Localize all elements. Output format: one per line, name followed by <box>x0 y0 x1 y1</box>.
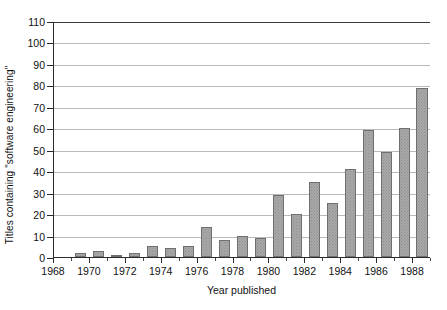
bar-1987 <box>399 128 410 257</box>
bar-1983 <box>327 203 338 257</box>
bar-series <box>54 22 430 257</box>
x-tick-1970 <box>89 258 90 263</box>
y-tick-label-40: 40 <box>33 166 45 178</box>
x-tick-minor-1981 <box>286 258 287 261</box>
plot-area <box>53 22 430 258</box>
y-tick-label-70: 70 <box>33 102 45 114</box>
bar-1972 <box>129 253 140 257</box>
x-tick-label-1986: 1986 <box>364 265 387 277</box>
x-tick-minor-1977 <box>215 258 216 261</box>
x-tick-minor-1969 <box>71 258 72 261</box>
x-tick-label-1988: 1988 <box>400 265 423 277</box>
bar-1969 <box>75 253 86 257</box>
bar-1977 <box>219 240 230 257</box>
y-tick-label-0: 0 <box>39 252 45 264</box>
x-tick-minor-1975 <box>179 258 180 261</box>
x-tick-label-1980: 1980 <box>257 265 280 277</box>
x-tick-1984 <box>340 258 341 263</box>
x-tick-label-1974: 1974 <box>149 265 172 277</box>
bar-1980 <box>273 195 284 257</box>
x-tick-minor-1985 <box>358 258 359 261</box>
x-tick-1980 <box>268 258 269 263</box>
bar-1982 <box>309 182 320 257</box>
bar-1986 <box>381 152 392 257</box>
bar-1979 <box>255 238 266 257</box>
x-tick-minor-1979 <box>250 258 251 261</box>
y-tick-label-50: 50 <box>33 145 45 157</box>
x-tick-label-1968: 1968 <box>41 265 64 277</box>
bar-1975 <box>183 246 194 257</box>
bar-1981 <box>291 214 302 257</box>
x-tick-minor-1971 <box>107 258 108 261</box>
x-tick-minor-1973 <box>143 258 144 261</box>
x-tick-1976 <box>197 258 198 263</box>
x-tick-label-1972: 1972 <box>113 265 136 277</box>
x-tick-label-1978: 1978 <box>221 265 244 277</box>
bar-1970 <box>93 251 104 257</box>
x-tick-minor-1987 <box>394 258 395 261</box>
bar-chart-figure: Titles containing "software engineering"… <box>0 0 447 310</box>
bar-1985 <box>363 130 374 257</box>
bar-1973 <box>147 246 158 257</box>
y-tick-label-90: 90 <box>33 59 45 71</box>
x-tick-label-1982: 1982 <box>293 265 316 277</box>
y-tick-label-100: 100 <box>27 37 45 49</box>
x-tick-label-1984: 1984 <box>329 265 352 277</box>
bar-1976 <box>201 227 212 257</box>
bar-1971 <box>111 255 122 257</box>
bar-1984 <box>345 169 356 257</box>
y-tick-label-20: 20 <box>33 209 45 221</box>
x-tick-1982 <box>304 258 305 263</box>
y-tick-label-30: 30 <box>33 188 45 200</box>
y-tick-label-60: 60 <box>33 123 45 135</box>
x-tick-1988 <box>412 258 413 263</box>
x-tick-label-1976: 1976 <box>185 265 208 277</box>
x-tick-1972 <box>125 258 126 263</box>
x-tick-1986 <box>376 258 377 263</box>
x-tick-minor-1989 <box>430 258 431 261</box>
y-tick-label-110: 110 <box>28 16 45 28</box>
x-tick-1968 <box>53 258 54 263</box>
bar-1988 <box>416 88 427 257</box>
x-tick-label-1970: 1970 <box>77 265 100 277</box>
y-tick-label-10: 10 <box>33 231 45 243</box>
y-axis-ticks: 0102030405060708090100110 <box>0 22 53 258</box>
bar-1974 <box>165 248 176 257</box>
x-tick-1978 <box>233 258 234 263</box>
bar-1978 <box>237 236 248 257</box>
y-tick-label-80: 80 <box>33 80 45 92</box>
x-tick-1974 <box>161 258 162 263</box>
x-tick-minor-1983 <box>322 258 323 261</box>
x-axis-title: Year published <box>53 284 430 296</box>
